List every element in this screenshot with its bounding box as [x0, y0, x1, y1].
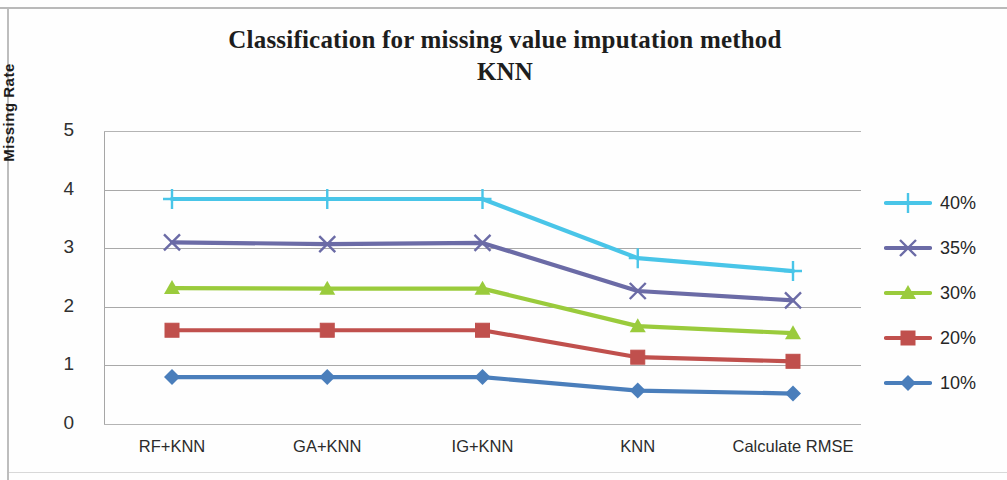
legend-swatch-plus-icon: [884, 192, 932, 214]
x-tick-label-ga-knn: GA+KNN: [293, 437, 361, 456]
legend-item-40pct[interactable]: 40%: [884, 190, 1002, 216]
marker-square: [631, 350, 645, 364]
marker-plus: [318, 189, 336, 209]
legend-item-35pct[interactable]: 35%: [884, 235, 1002, 261]
marker-plus: [629, 248, 647, 268]
marker-plus: [784, 261, 802, 281]
legend-item-10pct[interactable]: 10%: [884, 370, 1002, 396]
marker-square: [901, 331, 915, 345]
legend-swatch-cross-icon: [884, 237, 932, 259]
page-frame-bottom-rule: [9, 472, 1007, 473]
chart-title-line-1: Classification for missing value imputat…: [110, 24, 900, 56]
marker-diamond: [475, 369, 491, 385]
chart-legend: 40%35%30%20%10%: [884, 190, 1002, 405]
legend-label: 10%: [940, 373, 976, 394]
marker-square: [320, 323, 334, 337]
series-line: [172, 199, 793, 271]
x-axis-tick-labels: RF+KNNGA+KNNIG+KNNKNNCalculate RMSE: [104, 437, 861, 467]
marker-diamond: [319, 369, 335, 385]
marker-diamond: [630, 383, 646, 399]
marker-diamond: [164, 369, 180, 385]
x-tick-label-ig-knn: IG+KNN: [452, 437, 514, 456]
legend-label: 30%: [940, 283, 976, 304]
legend-swatch-square-icon: [884, 327, 932, 349]
chart-figure: Classification for missing value imputat…: [0, 0, 1007, 480]
x-tick-label-knn: KNN: [620, 437, 655, 456]
marker-plus: [163, 189, 181, 209]
marker-square: [165, 323, 179, 337]
series-layer: [104, 131, 861, 424]
x-tick-label-rf-knn: RF+KNN: [139, 437, 205, 456]
legend-label: 20%: [940, 328, 976, 349]
y-axis-tick-labels: 543210: [0, 131, 90, 424]
chart-title: Classification for missing value imputat…: [110, 24, 900, 88]
series-40pct: [163, 189, 802, 281]
legend-label: 40%: [940, 193, 976, 214]
legend-label: 35%: [940, 238, 976, 259]
y-tick-label-2: 2: [34, 295, 74, 317]
x-tick-label-calculate-rmse: Calculate RMSE: [732, 437, 853, 456]
page-frame-top-rule: [0, 7, 1007, 9]
legend-swatch-triangle-icon: [884, 282, 932, 304]
marker-plus: [899, 193, 917, 213]
series-35pct: [164, 234, 801, 308]
marker-diamond: [785, 386, 801, 402]
marker-square: [786, 354, 800, 368]
marker-plus: [474, 189, 492, 209]
y-tick-label-3: 3: [34, 236, 74, 258]
legend-item-30pct[interactable]: 30%: [884, 280, 1002, 306]
y-tick-label-0: 0: [34, 412, 74, 434]
marker-square: [476, 323, 490, 337]
y-tick-label-5: 5: [34, 119, 74, 141]
series-10pct: [164, 369, 801, 401]
legend-swatch-diamond-icon: [884, 372, 932, 394]
chart-title-line-2: KNN: [110, 56, 900, 88]
y-tick-label-4: 4: [34, 178, 74, 200]
marker-diamond: [900, 375, 916, 391]
gridline-y-0: [104, 424, 861, 425]
y-tick-label-1: 1: [34, 353, 74, 375]
legend-item-20pct[interactable]: 20%: [884, 325, 1002, 351]
